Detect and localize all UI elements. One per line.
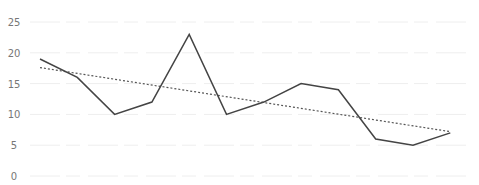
- data-series-line: [40, 34, 450, 145]
- y-tick-label-15: 15: [8, 79, 21, 90]
- gridlines: [30, 22, 470, 176]
- y-tick-label-25: 25: [8, 17, 21, 28]
- trend-line: [40, 68, 450, 132]
- y-tick-label-5: 5: [11, 140, 17, 151]
- y-tick-label-0: 0: [11, 171, 17, 182]
- y-tick-label-20: 20: [8, 48, 21, 59]
- line-chart: 0 5 10 15 20 25: [0, 0, 479, 185]
- y-axis: 0 5 10 15 20 25: [8, 17, 21, 182]
- y-tick-label-10: 10: [8, 109, 21, 120]
